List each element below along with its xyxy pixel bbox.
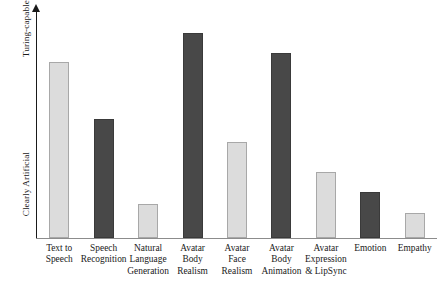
y-axis-top-label: Turing-capable <box>21 0 31 57</box>
bar-4 <box>183 10 203 238</box>
x-tick-label-line: Expression <box>300 254 352 265</box>
x-tick-label-9: Empathy <box>389 243 441 254</box>
bar-6 <box>271 10 291 238</box>
bar-rect <box>94 119 114 238</box>
x-tick-label-line: & LipSync <box>300 266 352 277</box>
bar-rect <box>49 62 69 238</box>
bar-rect <box>227 142 247 238</box>
y-axis-bottom-label: Clearly Artificial <box>21 152 31 216</box>
bar-9 <box>405 10 425 238</box>
bar-rect <box>271 53 291 238</box>
bar-3 <box>138 10 158 238</box>
bar-7 <box>316 10 336 238</box>
bar-rect <box>360 192 380 238</box>
bar-rect <box>316 172 336 238</box>
plot-area <box>37 10 437 238</box>
bar-1 <box>49 10 69 238</box>
x-axis-baseline <box>36 238 437 239</box>
bar-rect <box>183 33 203 238</box>
bar-rect <box>138 204 158 238</box>
bar-2 <box>94 10 114 238</box>
bar-5 <box>227 10 247 238</box>
x-tick-label-line: Empathy <box>389 243 441 254</box>
bar-8 <box>360 10 380 238</box>
bar-chart: Turing-capable Clearly Artificial Text t… <box>0 0 446 297</box>
bar-rect <box>405 213 425 238</box>
x-axis-tick-labels: Text toSpeechSpeechRecognitionNaturalLan… <box>37 243 437 295</box>
